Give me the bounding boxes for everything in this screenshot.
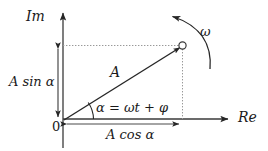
vector-magnitude-label: A <box>110 65 120 79</box>
angle-expression-label: α = ωt + φ <box>96 101 168 114</box>
phasor-tip-marker <box>179 42 186 49</box>
phasor-diagram: Im Re 0 ω A A sin α A cos α α = ωt + φ <box>0 0 268 151</box>
real-axis-label: Re <box>238 110 257 124</box>
origin-label: 0 <box>52 120 60 133</box>
angular-velocity-label: ω <box>200 25 211 38</box>
imaginary-axis-label: Im <box>26 9 45 23</box>
real-projection-label: A cos α <box>106 128 154 141</box>
imaginary-projection-label: A sin α <box>9 75 55 88</box>
